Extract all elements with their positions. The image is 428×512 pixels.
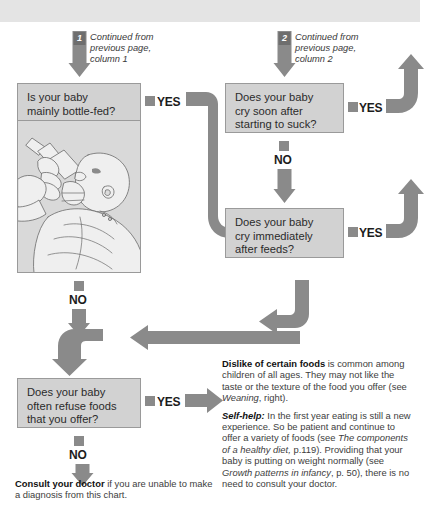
question-box-refuse-foods-line-3: that you offer? <box>27 413 140 427</box>
question-box-cry-soon: Does your baby cry soon after starting t… <box>225 83 344 133</box>
question-box-bottle-fed: Is your baby mainly bottle-fed? <box>17 83 141 121</box>
yes-arrow-refuse-foods <box>185 392 223 414</box>
entry-caption-2: Continued from previous page, column 2 <box>295 32 359 65</box>
merge-corner-arrow <box>57 329 103 377</box>
yes-chip-refuse-foods <box>145 396 155 406</box>
entry-caption-2-line-2: previous page, <box>295 43 359 54</box>
entry-caption-1-line-1: Continued from <box>90 32 154 43</box>
yes-arrow-cry-soon <box>386 55 428 121</box>
entry-caption-1-line-2: previous page, <box>90 43 154 54</box>
advice-paragraph-dislike: Dislike of certain foods is common among… <box>222 358 412 404</box>
label-yes-bottle-fed: YES <box>157 95 180 109</box>
advice-paragraph-selfhelp: Self-help: In the first year eating is s… <box>222 410 412 490</box>
footnote-heading: Consult your doctor <box>15 478 105 489</box>
entry-caption-2-line-3: column 2 <box>295 54 359 65</box>
label-yes-cry-soon: YES <box>359 101 382 115</box>
question-box-bottle-fed-line-2: mainly bottle-fed? <box>27 105 140 119</box>
question-box-cry-immediately: Does your baby cry immediately after fee… <box>225 208 344 258</box>
top-band <box>0 0 420 22</box>
question-box-bottle-fed-line-1: Is your baby <box>27 91 140 105</box>
advice-selfhelp-reference-2: Growth patterns in infancy <box>222 467 331 478</box>
entry-number-2: 2 <box>280 33 290 43</box>
no-arrow-cry-immediately <box>255 280 325 342</box>
no-chip-cry-soon <box>279 141 289 151</box>
question-box-refuse-foods-line-2: often refuse foods <box>27 400 140 414</box>
question-box-cry-soon-line-3: starting to suck? <box>235 118 343 132</box>
question-box-refuse-foods: Does your baby often refuse foods that y… <box>17 378 141 428</box>
bottle-feeding-illustration <box>17 121 141 273</box>
advice-dislike-reference: Weaning <box>222 392 259 403</box>
yes-chip-cry-immediately <box>348 227 358 237</box>
entry-number-1: 1 <box>75 33 85 43</box>
advice-text-block: Dislike of certain foods is common among… <box>222 358 412 489</box>
yes-chip-bottle-fed <box>145 96 155 106</box>
advice-heading-selfhelp: Self-help: <box>222 410 265 421</box>
no-arrow-cry-soon <box>274 169 296 205</box>
label-yes-cry-immediately: YES <box>359 226 382 240</box>
label-no-refuse-foods: NO <box>69 448 87 462</box>
footnote-consult-doctor: Consult your doctor if you are unable to… <box>15 478 215 501</box>
question-box-cry-soon-line-1: Does your baby <box>235 91 343 105</box>
question-box-cry-immediately-line-2: cry immediately <box>235 230 343 244</box>
question-box-cry-immediately-line-3: after feeds? <box>235 243 343 257</box>
yes-chip-cry-soon <box>348 102 358 112</box>
advice-heading-dislike: Dislike of certain foods <box>222 358 325 369</box>
label-no-bottle-fed: NO <box>69 293 87 307</box>
no-chip-refuse-foods <box>74 436 84 446</box>
no-chip-bottle-fed <box>74 281 84 291</box>
question-box-cry-immediately-line-1: Does your baby <box>235 216 343 230</box>
entry-caption-1-line-3: column 1 <box>90 54 154 65</box>
entry-caption-1: Continued from previous page, column 1 <box>90 32 154 65</box>
yes-arrow-cry-immediately <box>386 180 428 246</box>
entry-caption-2-line-1: Continued from <box>295 32 359 43</box>
label-yes-refuse-foods: YES <box>157 395 180 409</box>
label-no-cry-soon: NO <box>274 153 292 167</box>
question-box-refuse-foods-line-1: Does your baby <box>27 386 140 400</box>
advice-dislike-body-after: , right). <box>259 392 288 403</box>
question-box-cry-soon-line-2: cry soon after <box>235 105 343 119</box>
